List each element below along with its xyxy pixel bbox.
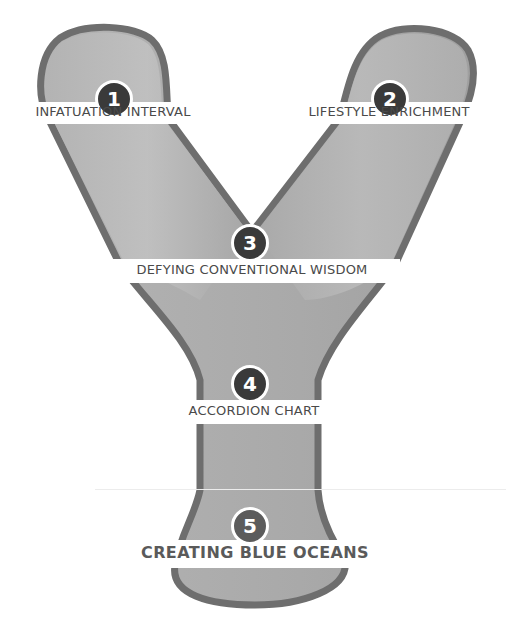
stage-3-number: 3 [243,231,257,255]
divider-line [95,489,506,490]
stage-3-label: DEFYING CONVENTIONAL WISDOM [114,262,390,277]
stage-2-label: LIFESTYLE ENRICHMENT [297,104,481,119]
stage-4-badge: 4 [231,365,269,403]
stage-5-number: 5 [243,514,257,538]
stage-4-label: ACCORDION CHART [174,403,334,418]
stage-1-label: INFATUATION INTERVAL [25,104,201,119]
stage-4-number: 4 [243,372,257,396]
stage-3-badge: 3 [231,224,269,262]
stage-5-badge: 5 [231,507,269,545]
stage-5-label: CREATING BLUE OCEANS [140,543,370,562]
